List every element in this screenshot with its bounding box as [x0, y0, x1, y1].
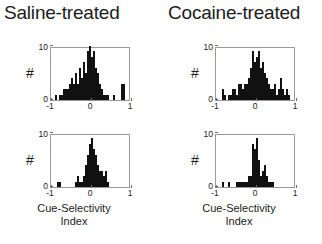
- histogram-bar: [272, 182, 274, 187]
- y-tick-label-max: 10: [39, 130, 48, 139]
- x-tick-label: 1: [293, 189, 298, 198]
- histogram-bars: [216, 135, 294, 187]
- y-tick-mark: [50, 186, 53, 187]
- histogram-bar: [228, 182, 230, 187]
- x-tick-label: 0: [88, 102, 93, 111]
- y-tick-labels: 10 0: [18, 46, 48, 102]
- y-tick-mark: [215, 99, 218, 100]
- histogram-bars: [216, 48, 294, 100]
- y-tick-label-max: 10: [204, 130, 213, 139]
- histogram-figure: Saline-treated Cocaine-treated # 10 0 -1…: [0, 0, 322, 244]
- plot-area: [50, 47, 130, 101]
- plot-area: [50, 134, 130, 188]
- y-tick-label-max: 10: [204, 43, 213, 52]
- x-tick-label: -1: [211, 189, 219, 198]
- x-axis-caption-saline: Cue-Selectivity Index: [8, 202, 140, 228]
- y-tick-mark: [215, 45, 218, 46]
- panel-cocaine-top: # 10 0 -101: [183, 46, 315, 118]
- column-title-saline: Saline-treated: [4, 2, 120, 24]
- histogram-bar: [55, 95, 57, 100]
- x-tick-label: 0: [88, 189, 93, 198]
- histogram-bar: [288, 95, 290, 100]
- x-tick-label: -1: [211, 102, 219, 111]
- x-tick-mark: [131, 185, 132, 188]
- panel-cocaine-bottom: # 10 0 -101: [183, 133, 315, 205]
- x-tick-mark: [256, 185, 257, 188]
- x-tick-labels: -101: [50, 102, 130, 114]
- histogram-bar: [224, 95, 226, 100]
- x-tick-label: 0: [253, 189, 258, 198]
- y-tick-label-max: 10: [39, 43, 48, 52]
- panel-saline-bottom: # 10 0 -101: [18, 133, 150, 205]
- x-tick-mark: [131, 98, 132, 101]
- x-tick-labels: -101: [215, 189, 295, 201]
- plot-area: [215, 134, 295, 188]
- x-axis-caption-line2: Index: [8, 215, 140, 228]
- column-title-cocaine: Cocaine-treated: [168, 2, 300, 24]
- y-tick-mark: [50, 132, 53, 133]
- histogram-bars: [51, 48, 129, 100]
- x-tick-label: 1: [128, 102, 133, 111]
- y-tick-labels: 10 0: [18, 133, 48, 189]
- x-tick-label: 0: [253, 102, 258, 111]
- x-tick-label: 1: [128, 189, 133, 198]
- x-tick-mark: [296, 185, 297, 188]
- histogram-bar: [222, 182, 224, 187]
- x-tick-mark: [296, 98, 297, 101]
- x-axis-caption-line1: Cue-Selectivity: [37, 202, 110, 214]
- histogram-bars: [51, 135, 129, 187]
- x-tick-mark: [91, 98, 92, 101]
- plot-area: [215, 47, 295, 101]
- x-tick-label: -1: [46, 102, 54, 111]
- histogram-bar: [59, 182, 61, 187]
- x-axis-caption-line2: Index: [173, 215, 305, 228]
- y-tick-mark: [215, 132, 218, 133]
- panel-saline-top: # 10 0 -101: [18, 46, 150, 118]
- x-axis-caption-cocaine: Cue-Selectivity Index: [173, 202, 305, 228]
- y-tick-labels: 10 0: [183, 133, 213, 189]
- x-tick-mark: [91, 185, 92, 188]
- y-tick-mark: [50, 45, 53, 46]
- x-tick-label: 1: [293, 102, 298, 111]
- x-tick-mark: [256, 98, 257, 101]
- y-tick-mark: [215, 186, 218, 187]
- y-tick-mark: [50, 99, 53, 100]
- x-axis-caption-line1: Cue-Selectivity: [202, 202, 275, 214]
- histogram-bar: [107, 182, 109, 187]
- histogram-bar: [107, 95, 109, 100]
- x-tick-label: -1: [46, 189, 54, 198]
- x-tick-labels: -101: [215, 102, 295, 114]
- histogram-bar: [123, 84, 125, 100]
- histogram-bar: [113, 95, 115, 100]
- y-tick-labels: 10 0: [183, 46, 213, 102]
- x-tick-labels: -101: [50, 189, 130, 201]
